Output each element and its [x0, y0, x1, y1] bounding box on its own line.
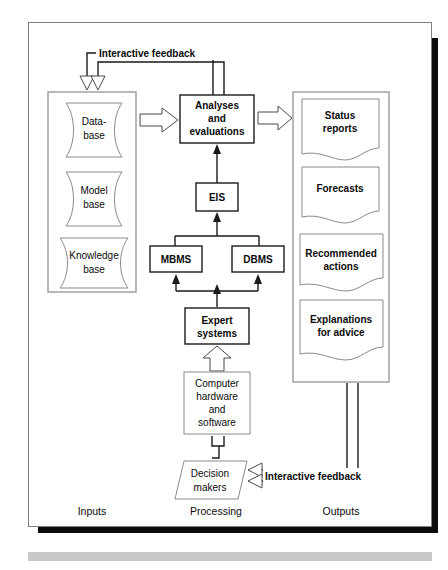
feedback-top-arrowhead-right	[91, 76, 105, 90]
box-computer-hardware-line2: hardware	[196, 391, 238, 402]
box-computer-hardware-line3: and	[209, 404, 226, 415]
output-label-explanations-line2: for advice	[317, 327, 365, 338]
box-analyses-line3: evaluations	[189, 126, 244, 137]
input-label-knowledge-base-line1: Knowledge	[69, 250, 119, 261]
output-label-status-reports-line1: Status	[325, 110, 356, 121]
arrowhead-branch-to-eis	[213, 212, 221, 222]
arrow-hardware-to-expert	[203, 346, 231, 371]
output-label-explanations-line1: Explanations	[310, 314, 373, 325]
box-expert-systems-line2: systems	[197, 328, 237, 339]
output-label-forecasts-line1: Forecasts	[316, 183, 364, 194]
input-label-model-base-line2: base	[83, 199, 105, 210]
arrowhead-to-mbms	[172, 274, 180, 284]
diagram-svg: Interactive feedback Data- base Model ba…	[0, 0, 448, 570]
connector-lightning-bolt	[212, 436, 224, 458]
shape-decision-makers	[175, 461, 247, 499]
box-eis-label: EIS	[209, 192, 225, 203]
section-label-processing: Processing	[190, 505, 242, 517]
feedback-bottom-arrowhead-lower	[248, 474, 262, 488]
shape-decision-makers-line2: makers	[194, 482, 227, 493]
diagram-stage: Interactive feedback Data- base Model ba…	[0, 0, 448, 570]
arrowhead-eis-to-analyses	[213, 144, 221, 154]
section-label-inputs: Inputs	[78, 505, 107, 517]
box-analyses-line2: and	[208, 113, 226, 124]
arrow-inputs-to-analyses	[140, 108, 178, 132]
arrowhead-expert-up	[213, 284, 221, 294]
output-label-status-reports-line2: reports	[323, 123, 358, 134]
output-label-recommended-actions-line2: actions	[323, 261, 358, 272]
arrowhead-to-dbms	[254, 274, 262, 284]
input-label-knowledge-base-line2: base	[83, 264, 105, 275]
input-label-data-base-line2: base	[83, 130, 105, 141]
box-mbms-label: MBMS	[161, 254, 192, 265]
feedback-top-line-inner	[98, 62, 224, 95]
box-computer-hardware-line1: Computer	[195, 378, 240, 389]
section-label-outputs: Outputs	[323, 505, 360, 517]
box-computer-hardware-line4: software	[198, 417, 236, 428]
feedback-bottom-line-outer	[262, 383, 358, 481]
input-label-model-base-line1: Model	[80, 185, 107, 196]
output-shape-forecasts	[302, 167, 379, 223]
arrow-analyses-to-outputs	[258, 106, 292, 130]
input-label-data-base-line1: Data-	[82, 116, 106, 127]
feedback-top-label: Interactive feedback	[99, 48, 196, 59]
box-dbms-label: DBMS	[243, 254, 273, 265]
box-analyses-line1: Analyses	[195, 100, 239, 111]
feedback-bottom-line-inner	[262, 383, 347, 470]
output-label-recommended-actions-line1: Recommended	[305, 248, 377, 259]
connector-mbms-dbms-to-eis	[175, 220, 259, 246]
feedback-bottom-label: Interactive feedback	[265, 471, 362, 482]
box-expert-systems-line1: Expert	[201, 315, 233, 326]
shape-decision-makers-line1: Decision	[191, 468, 229, 479]
input-shape-knowledge-base	[60, 238, 128, 288]
